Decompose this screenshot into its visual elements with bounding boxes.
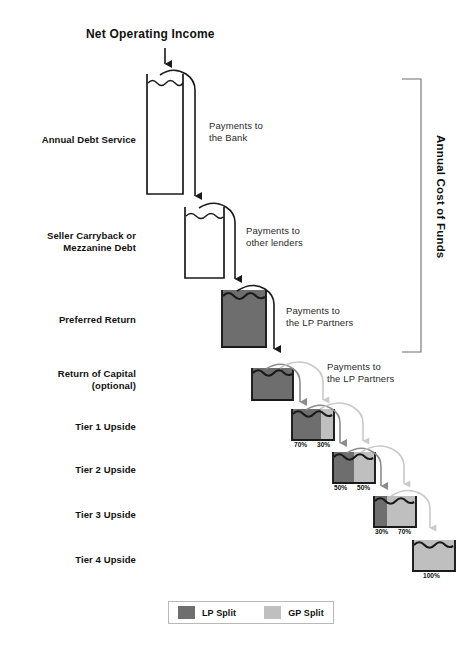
- bucket-tier-4: [413, 540, 455, 571]
- flow-label-lp-partners-1: Payments to the LP Partners: [286, 305, 353, 329]
- row-label-tier-3: Tier 3 Upside: [6, 509, 136, 521]
- row-label-tier-1: Tier 1 Upside: [6, 421, 136, 433]
- pct-tier2-gp: 50%: [357, 484, 370, 491]
- bucket-tier-3: [374, 496, 416, 527]
- pct-tier2-lp: 50%: [334, 484, 347, 491]
- pct-tier1-gp: 30%: [317, 441, 330, 448]
- legend-label-gp: GP Split: [288, 608, 324, 618]
- flow-label-bank: Payments to the Bank: [209, 120, 263, 144]
- legend: LP Split GP Split: [168, 601, 334, 624]
- row-label-annual-debt-service: Annual Debt Service: [6, 134, 136, 146]
- legend-swatch-lp: [178, 606, 195, 619]
- pct-tier1-lp: 70%: [294, 441, 307, 448]
- bucket-seller-carryback: [185, 207, 224, 278]
- bracket-label: Annual Cost of Funds: [435, 135, 447, 258]
- row-label-seller-carryback: Seller Carryback or Mezzanine Debt: [6, 230, 136, 253]
- pct-tier4-gp: 100%: [423, 572, 440, 579]
- pct-tier3-gp: 70%: [398, 528, 411, 535]
- legend-swatch-gp: [264, 606, 281, 619]
- bucket-tier-1: [292, 409, 334, 440]
- flow-label-lp-partners-2: Payments to the LP Partners: [327, 361, 394, 385]
- row-label-preferred-return: Preferred Return: [6, 314, 136, 326]
- pct-tier3-lp: 30%: [375, 528, 388, 535]
- row-label-tier-4: Tier 4 Upside: [6, 554, 136, 566]
- waterfall-diagram: Net Operating Income Annual Debt Service…: [0, 0, 475, 662]
- page-title: Net Operating Income: [86, 27, 215, 41]
- bucket-preferred-return: [222, 290, 266, 347]
- annual-cost-bracket: [402, 79, 421, 352]
- row-label-return-of-capital: Return of Capital (optional): [6, 368, 136, 391]
- flow-label-other-lenders: Payments to other lenders: [246, 225, 303, 249]
- bucket-tier-2: [333, 452, 375, 483]
- row-label-tier-2: Tier 2 Upside: [6, 464, 136, 476]
- legend-label-lp: LP Split: [202, 608, 236, 618]
- bucket-return-of-capital: [252, 368, 293, 400]
- bucket-annual-debt-service: [147, 74, 183, 194]
